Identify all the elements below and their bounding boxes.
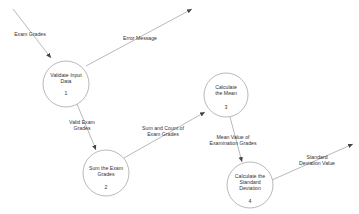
dfd-canvas (0, 0, 359, 214)
flow-label-sum-and-count-line2: Exam Grades (142, 131, 184, 137)
process-1-circle (43, 61, 89, 107)
flow-label-exam-grades: Exam Grades (14, 31, 46, 37)
flow-label-std-dev-value: Standard Deviation Value (299, 154, 335, 166)
process-3-number: 3 (225, 104, 228, 110)
process-2-label: Sum the Exam Grades (86, 165, 126, 177)
process-4-label: Calculate the Standard Deviation (230, 173, 270, 191)
process-1-label: Validate Input Data (46, 72, 86, 84)
flow-label-mean-value: Mean Value of Examination Grades (210, 134, 257, 146)
flow-label-valid-exam-grades-line2: Grades (69, 125, 95, 131)
flow-label-error-message-line1: Error Message (123, 35, 157, 41)
flow-label-error-message: Error Message (123, 35, 157, 41)
process-3-label-line2: the Mean (206, 90, 246, 96)
process-4-number: 4 (249, 198, 252, 204)
flow-label-valid-exam-grades: Valid Exam Grades (69, 119, 95, 131)
flow-label-std-dev-value-line2: Deviation Value (299, 160, 335, 166)
flow-label-sum-and-count: Sum and Count of Exam Grades (142, 125, 184, 137)
process-4-label-line3: Deviation (230, 185, 270, 191)
flow-label-mean-value-line2: Examination Grades (210, 140, 257, 146)
process-2-label-line2: Grades (86, 171, 126, 177)
process-2-number: 2 (105, 184, 108, 190)
process-3-label: Calculate the Mean (206, 84, 246, 96)
process-1-label-line2: Data (46, 78, 86, 84)
process-1-number: 1 (65, 90, 68, 96)
flow-label-exam-grades-line1: Exam Grades (14, 31, 46, 37)
